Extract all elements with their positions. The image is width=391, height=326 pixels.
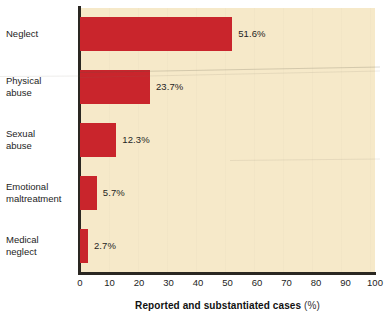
category-label: Physical abuse <box>6 75 76 99</box>
bar <box>80 123 116 157</box>
x-axis-title-main: Reported and substantiated cases <box>135 300 301 311</box>
x-tick-label: 90 <box>340 277 351 288</box>
x-axis-line <box>78 272 376 275</box>
bar-value-label: 5.7% <box>103 187 125 198</box>
x-tick-label: 50 <box>222 277 233 288</box>
bar-value-label: 12.3% <box>122 134 149 145</box>
bar <box>80 176 97 210</box>
x-tick-label: 20 <box>134 277 145 288</box>
bar <box>80 229 88 263</box>
bar-value-label: 51.6% <box>238 28 265 39</box>
x-tick-label: 70 <box>281 277 292 288</box>
category-label: Medical neglect <box>6 234 76 258</box>
x-axis-title: Reported and substantiated cases (%) <box>80 300 375 311</box>
x-tick-label: 100 <box>367 277 383 288</box>
bar-chart-figure: 51.6%Neglect23.7%Physical abuse12.3%Sexu… <box>0 0 391 326</box>
x-tick-label: 80 <box>311 277 322 288</box>
category-label: Sexual abuse <box>6 128 76 152</box>
x-tick-label: 0 <box>77 277 82 288</box>
bar <box>80 70 150 104</box>
bar-value-label: 2.7% <box>94 240 116 251</box>
x-tick-label: 60 <box>252 277 263 288</box>
bar <box>80 17 232 51</box>
bar-value-label: 23.7% <box>156 81 183 92</box>
category-label: Emotional maltreatment <box>6 181 76 205</box>
category-label: Neglect <box>6 28 76 40</box>
x-axis-title-unit: (%) <box>304 300 320 311</box>
x-tick-label: 30 <box>163 277 174 288</box>
x-tick-label: 10 <box>104 277 115 288</box>
x-tick-label: 40 <box>193 277 204 288</box>
